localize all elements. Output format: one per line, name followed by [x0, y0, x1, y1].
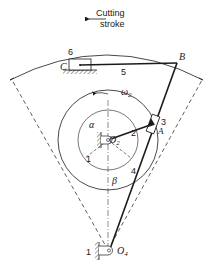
ram-arc	[10, 55, 203, 80]
ground-hatch-c	[63, 70, 97, 74]
label-1-bottom: 1	[86, 247, 91, 257]
ground-hatch-o4	[95, 242, 99, 260]
caption-line2: stroke	[100, 19, 125, 29]
cutting-stroke-annotation: Cutting stroke	[89, 8, 125, 29]
label-3: 3	[161, 117, 166, 127]
label-omega2: ω2	[121, 86, 132, 99]
label-6: 6	[68, 47, 73, 57]
label-b: B	[179, 51, 185, 62]
coupler-link-5	[80, 63, 177, 65]
label-c: C	[60, 61, 67, 72]
mechanism-diagram: Cutting stroke C B A 6 5	[0, 0, 214, 268]
label-o4: O4	[117, 245, 128, 258]
label-beta: β	[111, 175, 117, 186]
label-2: 2	[131, 128, 136, 138]
label-4: 4	[131, 166, 136, 176]
extreme-line-right	[108, 80, 202, 250]
extreme-line-left	[12, 80, 108, 250]
caption-line1: Cutting	[96, 8, 125, 18]
label-5: 5	[121, 67, 126, 77]
label-alpha: α	[89, 119, 95, 130]
label-a: A	[157, 126, 164, 136]
angular-velocity-arrow-icon	[96, 93, 108, 94]
label-1-top: 1	[86, 154, 91, 164]
ground-hatch-o2	[97, 132, 101, 148]
